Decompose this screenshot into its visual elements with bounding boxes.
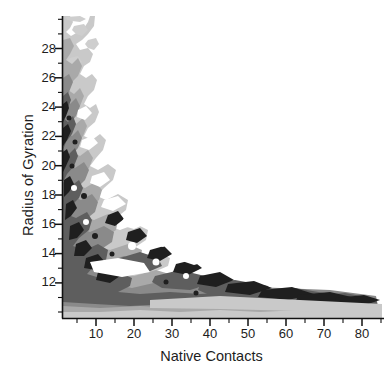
x-minor-ticks <box>77 319 381 323</box>
contour-plot-figure: Radius of Gyration Native Contacts 28 26… <box>0 0 389 382</box>
density-contour-group <box>63 16 382 318</box>
y-major-ticks <box>55 49 62 283</box>
plot-canvas <box>0 0 389 382</box>
